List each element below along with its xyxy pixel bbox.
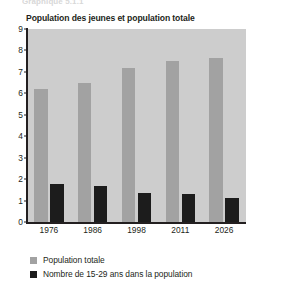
y-tick-label: 7 (18, 67, 23, 77)
bar-total (166, 61, 180, 222)
x-tick-label: 2026 (215, 225, 234, 235)
legend-swatch-youth (30, 271, 37, 278)
y-tick-label: 2 (18, 174, 23, 184)
bar-youth (94, 186, 108, 222)
y-tick-label: 3 (18, 153, 23, 163)
y-tick-label: 6 (18, 88, 23, 98)
y-tick-label: 0 (18, 217, 23, 227)
legend-swatch-total (30, 257, 37, 264)
plot-area: 0123456789 19761986199820112026 (27, 29, 246, 222)
bar-group (115, 29, 159, 222)
bar-youth (138, 193, 152, 222)
bar-total (34, 89, 48, 222)
bar-youth (225, 198, 239, 222)
y-tick-label: 4 (18, 131, 23, 141)
x-tick-label: 1998 (127, 225, 146, 235)
chart-title: Population des jeunes et population tota… (26, 13, 195, 23)
x-axis-line (26, 222, 246, 224)
legend-item-youth: Nombre de 15-29 ans dans la population (30, 267, 280, 281)
x-tick-label: 1976 (40, 225, 59, 235)
legend-label-youth: Nombre de 15-29 ans dans la population (43, 269, 192, 279)
cut-off-caption: Graphique 5.1.1 (22, 0, 172, 6)
bar-youth (182, 194, 196, 222)
bar-total (78, 83, 92, 222)
y-tick-label: 5 (18, 110, 23, 120)
bar-group (71, 29, 115, 222)
bar-group (202, 29, 246, 222)
y-tick-label: 9 (18, 24, 23, 34)
bar-total (209, 58, 223, 222)
y-tick-label: 8 (18, 45, 23, 55)
y-tick-label: 1 (18, 196, 23, 206)
x-tick-label: 1986 (83, 225, 102, 235)
x-tick-label: 2011 (171, 225, 189, 235)
chart-figure: Graphique 5.1.1 Population des jeunes et… (0, 0, 290, 286)
bar-group (158, 29, 202, 222)
legend-label-total: Population totale (43, 255, 105, 265)
bar-youth (50, 184, 64, 222)
legend-item-total: Population totale (30, 253, 280, 267)
bar-total (122, 68, 136, 222)
bar-group (27, 29, 71, 222)
chart-legend: Population totale Nombre de 15-29 ans da… (30, 253, 280, 281)
